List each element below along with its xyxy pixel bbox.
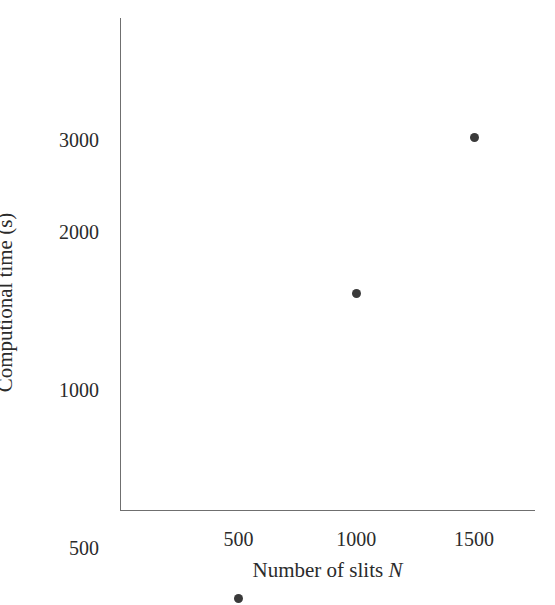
scatter-plot-figure: 500100020003000 50010001500 Number of sl… <box>0 0 555 605</box>
data-point <box>234 594 243 603</box>
x-axis-title-symbol: N <box>388 558 402 582</box>
x-axis-title-text: Number of slits <box>253 558 389 582</box>
data-points-layer <box>0 0 555 605</box>
data-point <box>352 289 361 298</box>
x-axis-title: Number of slits N <box>120 558 535 583</box>
data-point <box>470 133 479 142</box>
y-axis-title: Computional time (s) <box>0 0 40 605</box>
y-axis-title-text: Computional time (s) <box>0 213 48 393</box>
